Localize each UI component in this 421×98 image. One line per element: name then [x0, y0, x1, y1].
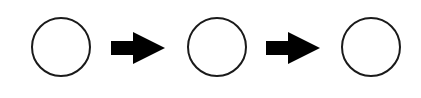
- circle-node-2: [187, 17, 247, 77]
- circle-node-3: [341, 17, 401, 77]
- circle-node-1: [31, 17, 91, 77]
- right-arrow-icon: [266, 32, 320, 64]
- right-arrow-icon: [111, 32, 165, 64]
